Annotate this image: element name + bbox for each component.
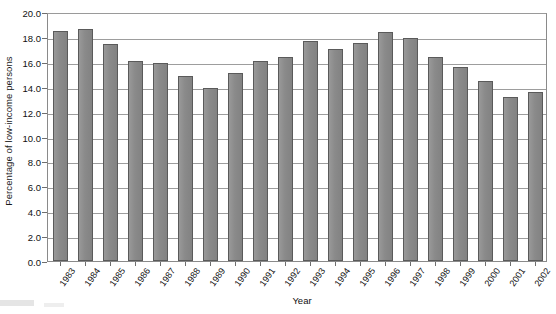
bar bbox=[528, 92, 544, 261]
gridline bbox=[48, 238, 546, 239]
x-axis-tick-mark bbox=[435, 262, 436, 266]
y-axis-tick-label: 2.0 bbox=[0, 232, 41, 243]
y-axis-tick-mark bbox=[42, 262, 47, 263]
bar bbox=[503, 97, 519, 261]
gridline bbox=[48, 114, 546, 115]
x-axis-tick-mark bbox=[235, 262, 236, 266]
x-axis-tick-mark bbox=[110, 262, 111, 266]
bar bbox=[328, 49, 344, 261]
gridline bbox=[48, 89, 546, 90]
x-axis-tick-mark bbox=[485, 262, 486, 266]
gridline bbox=[48, 139, 546, 140]
x-axis-title-text: Year bbox=[292, 295, 311, 306]
y-axis-tick-label: 16.0 bbox=[0, 57, 41, 68]
bar bbox=[153, 63, 169, 261]
y-axis-tick-label: 12.0 bbox=[0, 107, 41, 118]
scan-artifact-2 bbox=[44, 303, 64, 307]
x-axis-title: Year bbox=[0, 295, 556, 306]
y-axis-tick-label: 6.0 bbox=[0, 182, 41, 193]
bar bbox=[203, 88, 219, 261]
x-axis-tick-mark bbox=[260, 262, 261, 266]
bar bbox=[453, 67, 469, 261]
x-axis-tick-mark bbox=[310, 262, 311, 266]
y-axis-tick-label: 8.0 bbox=[0, 157, 41, 168]
bar bbox=[53, 31, 69, 261]
x-axis-tick-mark bbox=[185, 262, 186, 266]
bar bbox=[278, 57, 294, 261]
gridline bbox=[48, 39, 546, 40]
y-axis-tick-label: 20.0 bbox=[0, 8, 41, 19]
plot-inner bbox=[48, 14, 546, 261]
y-axis-tick-label: 4.0 bbox=[0, 207, 41, 218]
y-axis-tick-label: 14.0 bbox=[0, 82, 41, 93]
y-axis-tick-label: 10.0 bbox=[0, 132, 41, 143]
y-axis-tick-label: 18.0 bbox=[0, 32, 41, 43]
bar bbox=[378, 32, 394, 261]
x-axis-tick-mark bbox=[510, 262, 511, 266]
y-axis-tick-label: 0.0 bbox=[0, 257, 41, 268]
bar bbox=[403, 38, 419, 261]
gridline bbox=[48, 188, 546, 189]
bar bbox=[78, 29, 94, 261]
x-axis-tick-mark bbox=[160, 262, 161, 266]
gridline bbox=[48, 163, 546, 164]
bar bbox=[428, 57, 444, 261]
gridline bbox=[48, 213, 546, 214]
x-axis-tick-mark bbox=[335, 262, 336, 266]
x-axis-tick-mark bbox=[60, 262, 61, 266]
x-axis-tick-mark bbox=[385, 262, 386, 266]
bar bbox=[353, 43, 369, 261]
bar bbox=[178, 76, 194, 262]
x-axis-tick-mark bbox=[360, 262, 361, 266]
scan-artifact-1 bbox=[0, 300, 34, 306]
x-axis-tick-mark bbox=[285, 262, 286, 266]
bar bbox=[228, 73, 244, 261]
plot-area bbox=[47, 13, 547, 262]
bar-chart-figure: Percentage of low-income persons 0.02.04… bbox=[0, 0, 556, 314]
bar bbox=[253, 61, 269, 261]
x-axis-tick-mark bbox=[210, 262, 211, 266]
bar bbox=[128, 61, 144, 261]
bar bbox=[103, 44, 119, 261]
x-axis-tick-mark bbox=[535, 262, 536, 266]
bar bbox=[478, 81, 494, 262]
x-axis-tick-mark bbox=[85, 262, 86, 266]
gridline bbox=[48, 64, 546, 65]
bar bbox=[303, 41, 319, 261]
x-axis-tick-mark bbox=[460, 262, 461, 266]
x-axis-tick-mark bbox=[410, 262, 411, 266]
x-axis-tick-mark bbox=[135, 262, 136, 266]
